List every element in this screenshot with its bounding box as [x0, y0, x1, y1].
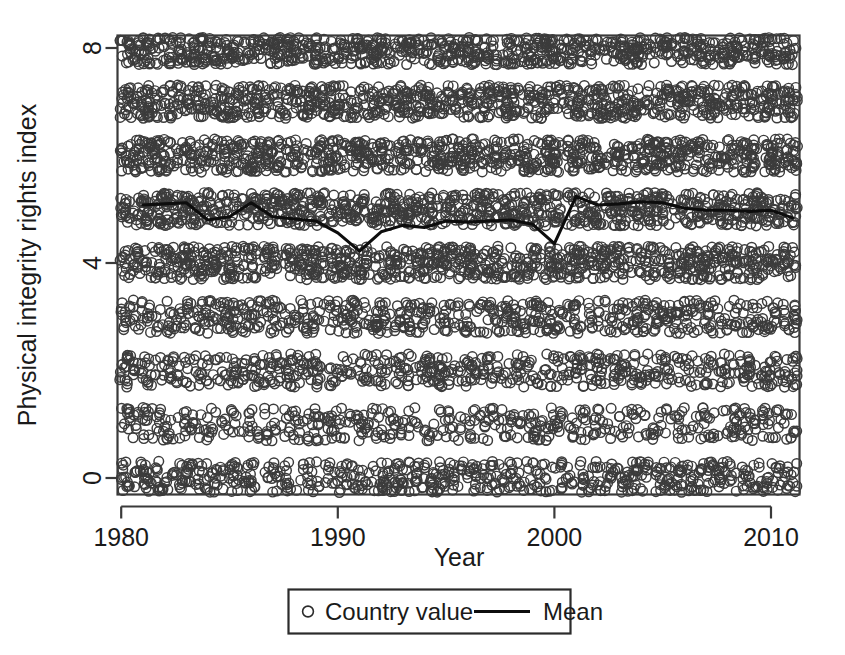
x-tick-label: 1980 [93, 523, 149, 551]
x-tick-label: 2010 [743, 523, 799, 551]
y-tick-label: 4 [78, 256, 106, 270]
y-tick-label: 0 [78, 471, 106, 485]
y-axis-title: Physical integrity rights index [13, 103, 41, 426]
y-tick-label: 8 [78, 41, 106, 55]
legend-label-mean: Mean [543, 598, 603, 625]
legend-label-country-value: Country value [325, 598, 473, 625]
chart-figure: 048 1980199020002010 Physical integrity … [0, 0, 845, 655]
scatter-plot-svg: 048 1980199020002010 Physical integrity … [0, 0, 845, 655]
x-tick-label: 1990 [310, 523, 366, 551]
y-axis: 048 [78, 41, 118, 485]
x-axis-title: Year [434, 543, 485, 571]
x-tick-label: 2000 [527, 523, 583, 551]
legend: Country value Mean [289, 590, 604, 634]
